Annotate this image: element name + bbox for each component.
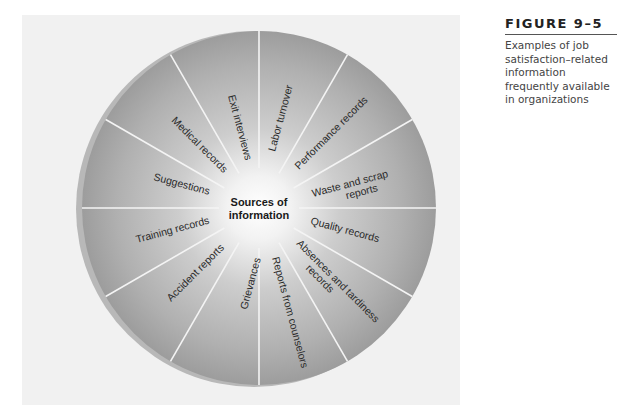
figure-description: Examples of job satisfaction–related inf…	[505, 39, 621, 107]
figure-number: FIGURE 9–5	[505, 16, 617, 35]
figure-caption: FIGURE 9–5 Examples of job satisfaction–…	[505, 16, 621, 107]
center-label-line2: information	[229, 209, 290, 221]
center-label-line1: Sources of	[231, 196, 288, 208]
